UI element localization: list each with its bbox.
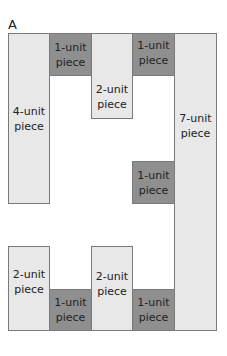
piece-7-unit: 7-unit piece — [174, 33, 217, 331]
piece-label-line1: 1-unit — [137, 295, 169, 310]
piece-label-line2: piece — [137, 183, 169, 198]
piece-label-line2: piece — [179, 126, 211, 141]
piece-label-line2: piece — [137, 310, 169, 325]
piece-label-line1: 1-unit — [54, 295, 86, 310]
piece-label-line1: 1-unit — [137, 38, 169, 53]
piece-4-unit: 4-unit piece — [8, 33, 50, 204]
piece-2-unit-top: 2-unit piece — [91, 33, 133, 119]
piece-1-unit-bottom-left: 1-unit piece — [49, 289, 92, 331]
panel-label: A — [8, 17, 17, 32]
piece-1-unit-bottom-right: 1-unit piece — [132, 289, 175, 331]
piece-label-line2: piece — [96, 97, 128, 112]
piece-2-unit-bottom-left: 2-unit piece — [8, 246, 50, 331]
piece-2-unit-bottom-middle: 2-unit piece — [91, 246, 133, 331]
piece-label-line1: 2-unit — [13, 267, 45, 282]
piece-label-line1: 7-unit — [179, 111, 211, 126]
piece-1-unit-middle: 1-unit piece — [132, 161, 175, 204]
piece-label-line2: piece — [13, 282, 45, 297]
piece-label-line1: 2-unit — [96, 82, 128, 97]
piece-label-line2: piece — [54, 55, 86, 70]
piece-1-unit-top-right: 1-unit piece — [132, 33, 175, 76]
piece-label-line1: 1-unit — [54, 40, 86, 55]
piece-label-line1: 2-unit — [96, 269, 128, 284]
piece-label-line1: 4-unit — [13, 104, 45, 119]
piece-label-line2: piece — [96, 284, 128, 299]
piece-label-line2: piece — [137, 53, 169, 68]
piece-label-line2: piece — [54, 310, 86, 325]
piece-label-line1: 1-unit — [137, 168, 169, 183]
piece-label-line2: piece — [13, 119, 45, 134]
piece-1-unit-top-left: 1-unit piece — [49, 33, 92, 76]
